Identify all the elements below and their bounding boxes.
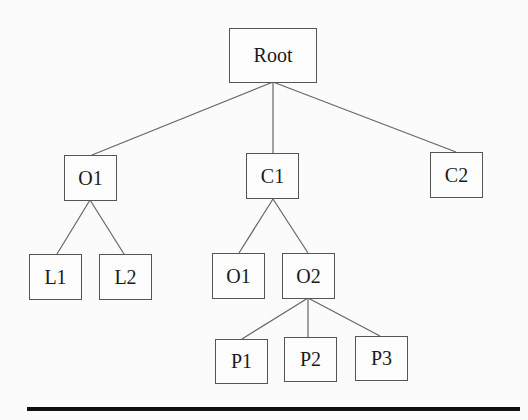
edge-root-o1a: [92, 82, 273, 155]
node-label: C1: [261, 165, 284, 188]
bottom-rule: [27, 407, 520, 411]
node-c1: C1: [246, 153, 299, 199]
node-label: P3: [371, 347, 392, 370]
node-p2: P2: [284, 337, 337, 382]
node-root: Root: [229, 28, 317, 83]
node-label: O1: [226, 265, 250, 288]
node-label: L1: [44, 266, 66, 289]
node-o1a: O1: [64, 155, 117, 201]
edge-o1a-l2: [90, 200, 124, 254]
edge-o2-p3: [308, 298, 380, 336]
node-label: P2: [300, 348, 321, 371]
node-label: C2: [445, 164, 468, 187]
edge-o2-p1: [242, 298, 308, 339]
node-label: P1: [231, 350, 252, 373]
node-label: O2: [296, 265, 320, 288]
node-o2: O2: [282, 253, 335, 299]
node-label: O1: [78, 167, 102, 190]
node-label: Root: [254, 44, 293, 67]
edge-o1a-l1: [57, 200, 90, 254]
node-o1b: O1: [212, 253, 265, 299]
edge-c1-o1b: [239, 199, 273, 253]
node-l1: L1: [29, 254, 82, 300]
edge-c1-o2: [273, 199, 308, 253]
node-p1: P1: [215, 339, 268, 384]
node-l2: L2: [99, 254, 152, 300]
node-label: L2: [114, 266, 136, 289]
node-c2: C2: [430, 152, 483, 198]
edge-root-c2: [273, 82, 456, 152]
node-p3: P3: [355, 336, 408, 381]
